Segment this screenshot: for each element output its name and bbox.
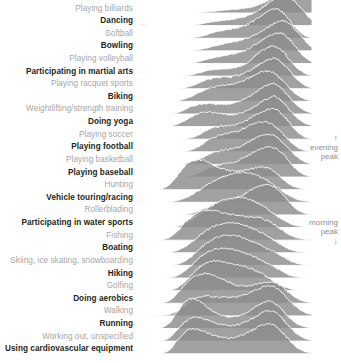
ridgeline-row: Boating <box>0 242 341 255</box>
row-label-playing-soccer: Playing soccer <box>79 129 133 140</box>
ridgeline-row: Doing yoga <box>0 116 341 129</box>
ridgeline-row: Hunting <box>0 179 341 192</box>
row-label-playing-volleyball: Playing volleyball <box>69 53 133 64</box>
ridgeline-row: Doing aerobics <box>0 293 341 306</box>
ridgeline-row: Biking <box>0 91 341 104</box>
arrow-down-icon: ↓ <box>309 237 338 246</box>
row-label-golfing: Golfing <box>107 280 133 291</box>
ridgeline-row: Playing football <box>0 141 341 154</box>
ridgeline-row: Walking <box>0 305 341 318</box>
row-label-participating-in-water-sports: Participating in water sports <box>21 217 133 228</box>
ridgeline-row: Hiking <box>0 268 341 281</box>
row-label-working-out-unspecified: Working out, unspecified <box>42 331 133 342</box>
ridgeline-row: Fishing <box>0 230 341 243</box>
annotation-evening-line1: evening <box>310 143 338 152</box>
row-label-dancing: Dancing <box>100 15 133 26</box>
ridgeline-row: Playing basketball <box>0 154 341 167</box>
row-label-walking: Walking <box>104 305 133 316</box>
ridgeline-row: Participating in martial arts <box>0 66 341 79</box>
row-label-playing-football: Playing football <box>71 141 133 152</box>
ridgeline-row: Participating in water sports <box>0 217 341 230</box>
row-label-doing-aerobics: Doing aerobics <box>73 293 133 304</box>
ridgeline-row: Skiing, ice skating, snowboarding <box>0 255 341 268</box>
annotation-evening-line2: peak <box>321 152 338 161</box>
row-label-softball: Softball <box>105 28 133 39</box>
ridgeline-row: Playing billiards <box>0 3 341 16</box>
row-label-bowling: Bowling <box>101 40 133 51</box>
annotation-morning-line1: morning <box>309 218 338 227</box>
row-label-boating: Boating <box>102 242 133 253</box>
ridgeline-row: Softball <box>0 28 341 41</box>
ridgeline-row: Weightlifting/strength training <box>0 103 341 116</box>
row-label-hunting: Hunting <box>104 179 133 190</box>
row-label-weightlifting-strength-training: Weightlifting/strength training <box>26 103 133 114</box>
ridgeline-row: Vehicle touring/racing <box>0 192 341 205</box>
row-label-hiking: Hiking <box>108 268 133 279</box>
ridgeline-row: Playing volleyball <box>0 53 341 66</box>
ridgeline-row: Dancing <box>0 15 341 28</box>
ridgeline-row: Golfing <box>0 280 341 293</box>
annotation-morning-peak: morning peak ↓ <box>309 218 338 246</box>
ridgeline-row: Bowling <box>0 40 341 53</box>
row-label-skiing-ice-skating-snowboarding: Skiing, ice skating, snowboarding <box>10 255 133 266</box>
ridgeline-row: Running <box>0 318 341 331</box>
row-label-playing-baseball: Playing baseball <box>68 167 133 178</box>
annotation-evening-peak: ↑ evening peak <box>310 134 338 162</box>
ridgeline-row: Playing soccer <box>0 129 341 142</box>
ridgeline-row: Using cardiovascular equipment <box>0 343 341 356</box>
ridgeline-row: Playing baseball <box>0 167 341 180</box>
ridgeline-row: Working out, unspecified <box>0 331 341 344</box>
category-label-column: Playing billiardsDancingSoftballBowlingP… <box>0 0 341 363</box>
row-label-running: Running <box>99 318 133 329</box>
row-label-fishing: Fishing <box>106 230 133 241</box>
row-label-playing-billiards: Playing billiards <box>75 3 133 14</box>
row-label-doing-yoga: Doing yoga <box>88 116 133 127</box>
row-label-participating-in-martial-arts: Participating in martial arts <box>26 66 133 77</box>
arrow-up-icon: ↑ <box>310 134 338 143</box>
ridgeline-chart: Playing billiardsDancingSoftballBowlingP… <box>0 0 341 363</box>
row-label-using-cardiovascular-equipment: Using cardiovascular equipment <box>5 343 133 354</box>
ridgeline-row: Playing racquet sports <box>0 78 341 91</box>
row-label-rollerblading: Rollerblading <box>85 204 133 215</box>
row-label-playing-basketball: Playing basketball <box>66 154 133 165</box>
ridgeline-row: Rollerblading <box>0 204 341 217</box>
row-label-biking: Biking <box>108 91 133 102</box>
row-label-vehicle-touring-racing: Vehicle touring/racing <box>46 192 133 203</box>
row-label-playing-racquet-sports: Playing racquet sports <box>51 78 133 89</box>
